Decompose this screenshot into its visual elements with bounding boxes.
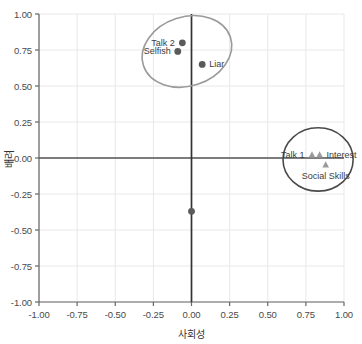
x-axis-tick-label: -0.75 — [57, 309, 97, 320]
y-axis-title: 배려 — [1, 129, 16, 189]
y-axis-tick-label: -0.25 — [2, 189, 32, 200]
x-axis-tick-label: -1.00 — [19, 309, 59, 320]
point-label: Selfish — [144, 46, 171, 56]
y-axis-tick-label: -0.75 — [2, 261, 32, 272]
point-label: Social Skills — [302, 171, 350, 181]
data-point-triangle — [309, 151, 316, 157]
y-axis-tick-label: 0.25 — [2, 117, 32, 128]
point-label: Talk 1 — [281, 150, 305, 160]
point-label: Liar — [209, 59, 224, 69]
x-axis-tick-label: 0.00 — [172, 309, 212, 320]
y-axis-tick-label: -1.00 — [2, 297, 32, 308]
y-axis-tick-label: 1.00 — [2, 9, 32, 20]
x-axis-tick-label: 1.00 — [324, 309, 362, 320]
x-axis-tick-label: 0.25 — [210, 309, 250, 320]
x-axis-tick-label: -0.50 — [95, 309, 135, 320]
data-point-circle — [199, 61, 206, 68]
x-axis-tick-label: 0.50 — [248, 309, 288, 320]
data-point-triangle — [316, 151, 323, 157]
y-axis-tick-label: 0.50 — [2, 81, 32, 92]
data-point-triangle — [322, 161, 329, 167]
x-axis-title: 사회성 — [132, 326, 252, 341]
x-axis-tick-label: 0.75 — [286, 309, 326, 320]
y-axis-tick-label: 0.75 — [2, 45, 32, 56]
cluster-ellipses — [133, 4, 353, 191]
x-axis-tick-label: -0.25 — [133, 309, 173, 320]
data-point-circle — [188, 208, 195, 215]
data-point-circle — [179, 39, 186, 46]
point-label: Interest — [327, 150, 357, 160]
data-point-circle — [174, 48, 181, 55]
y-axis-tick-label: -0.50 — [2, 225, 32, 236]
